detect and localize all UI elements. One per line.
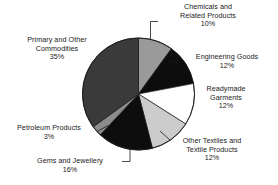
pie-label-value: 12% bbox=[179, 62, 275, 71]
pie-label-value: 10% bbox=[160, 20, 256, 29]
pie-label-petroleum-products: Petroleum Products 3% bbox=[2, 124, 96, 141]
pie-label-readymade-garments: Readymade Garments 12% bbox=[186, 85, 266, 111]
pie-label-value: 3% bbox=[2, 133, 96, 142]
pie-label-gems-and-jewellery: Gems and Jewellery 16% bbox=[18, 157, 122, 174]
pie-label-engineering-goods: Engineering Goods 12% bbox=[179, 53, 275, 70]
leader-line-chemicals bbox=[151, 22, 159, 40]
pie-label-value: 12% bbox=[160, 154, 264, 163]
pie-chart-figure: Chemicals and Related Products 10% Engin… bbox=[0, 0, 278, 185]
pie-label-value: 12% bbox=[186, 102, 266, 111]
pie-label-chemicals-and-related-products: Chemicals and Related Products 10% bbox=[160, 3, 256, 29]
pie-label-other-textiles-and-textile-products: Other Textiles and Textile Products 12% bbox=[160, 137, 264, 163]
pie-label-value: 16% bbox=[18, 166, 122, 175]
pie-label-value: 35% bbox=[8, 53, 106, 62]
pie-label-primary-and-other-commodities: Primary and Other Commodities 35% bbox=[8, 36, 106, 62]
